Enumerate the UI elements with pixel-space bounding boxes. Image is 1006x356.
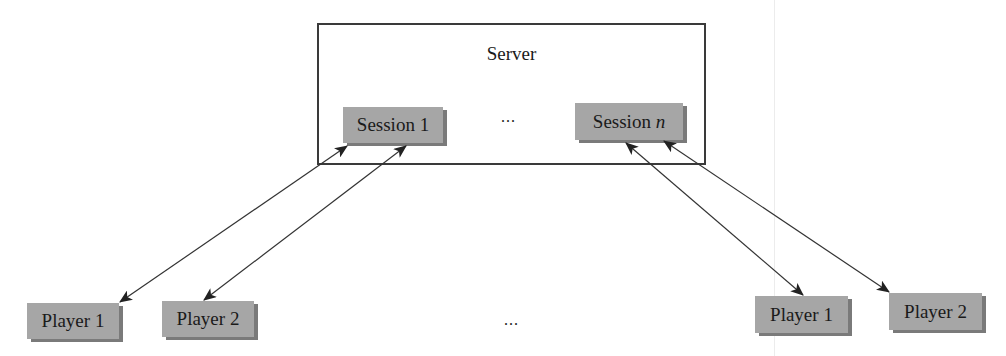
server-box: Server xyxy=(317,23,706,165)
right-player-2-label: Player 2 xyxy=(904,301,967,322)
left-player-2-node: Player 2 xyxy=(162,301,254,337)
left-player-1-node: Player 1 xyxy=(27,303,119,339)
session-1-node: Session 1 xyxy=(343,107,443,143)
session-1-label: Session 1 xyxy=(357,114,429,135)
session-ellipsis: ... xyxy=(501,108,516,126)
right-player-1-node: Player 1 xyxy=(755,296,848,333)
right-player-2-node: Player 2 xyxy=(889,293,982,330)
arrow-sessionn-player1 xyxy=(626,143,803,295)
players-ellipsis: ... xyxy=(504,311,519,329)
server-title: Server xyxy=(319,43,704,65)
right-player-1-label: Player 1 xyxy=(770,304,833,325)
left-player-1-label: Player 1 xyxy=(42,310,105,331)
session-n-node: Session n xyxy=(575,103,683,140)
arrow-session1-player2 xyxy=(204,146,406,300)
arrow-session1-player1 xyxy=(120,146,347,302)
session-n-label: Session n xyxy=(593,111,665,132)
left-player-2-label: Player 2 xyxy=(177,308,240,329)
